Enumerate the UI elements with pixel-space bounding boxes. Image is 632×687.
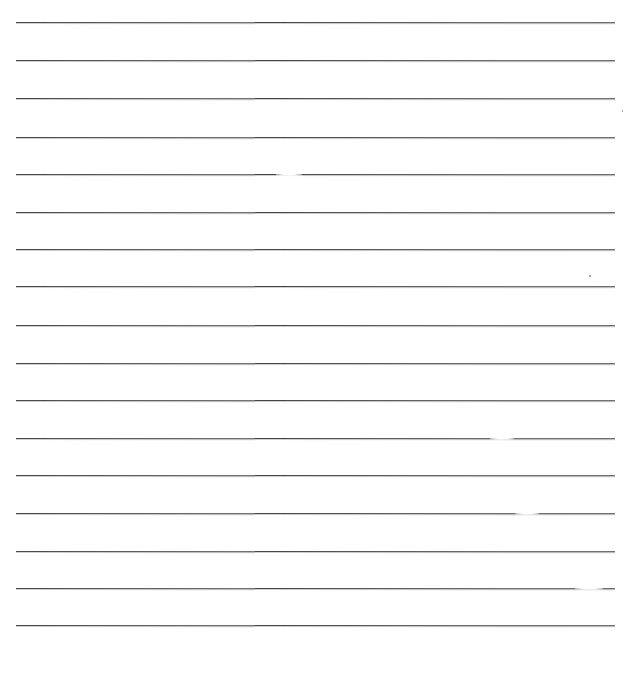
ruled-line-16 (16, 588, 615, 589)
ruled-line-1 (16, 22, 615, 23)
ruled-line-2 (16, 60, 615, 61)
lined-paper-page (0, 0, 632, 687)
ruled-line-6 (16, 212, 615, 213)
scan-fade-artifact (276, 173, 302, 176)
ruled-line-5 (16, 174, 615, 175)
scan-fade-artifact (575, 587, 603, 590)
scan-speck (622, 110, 623, 112)
ruled-line-4 (16, 137, 615, 138)
ruled-line-3 (16, 98, 615, 99)
scan-fade-artifact (515, 512, 539, 515)
ruled-line-8 (16, 286, 615, 287)
ruled-line-12 (16, 438, 615, 439)
scan-fade-artifact (490, 437, 514, 440)
ruled-line-13 (16, 475, 615, 476)
ruled-line-15 (16, 551, 615, 552)
scan-speck (589, 275, 591, 277)
ruled-line-10 (16, 363, 615, 364)
ruled-line-11 (16, 400, 615, 401)
ruled-line-9 (16, 325, 615, 326)
ruled-line-17 (16, 625, 615, 626)
ruled-line-7 (16, 249, 615, 250)
